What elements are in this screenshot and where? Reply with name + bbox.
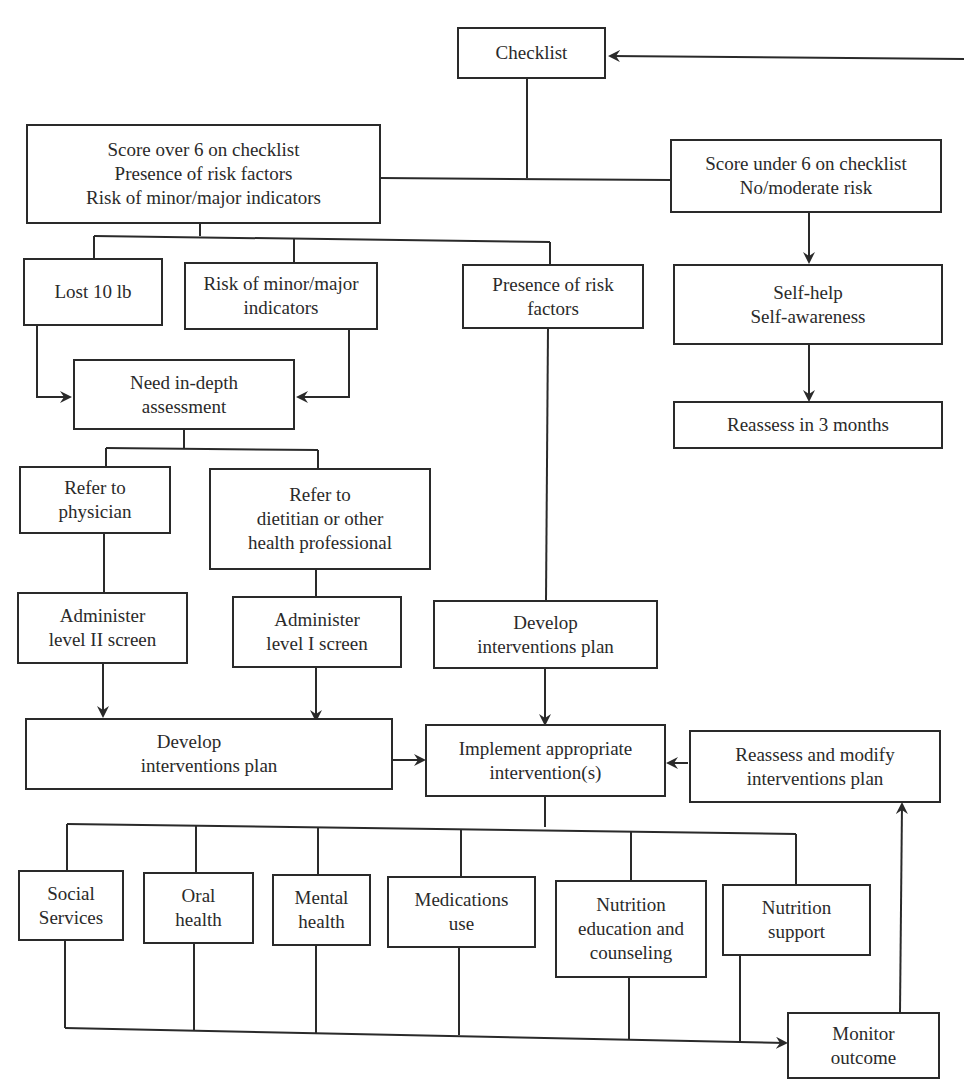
node-label: support (768, 920, 825, 944)
node-label: education and (578, 917, 684, 941)
node-label: Reassess in 3 months (727, 413, 889, 437)
node-label: Services (39, 906, 103, 930)
node-label: Lost 10 lb (54, 280, 131, 304)
node-label: Medications (415, 888, 509, 912)
node-nutrition-education: Nutrition education and counseling (555, 880, 707, 978)
node-reassess-modify-plan: Reassess and modify interventions plan (689, 730, 941, 803)
node-need-in-depth-assessment: Need in-depth assessment (73, 359, 295, 430)
node-administer-level-1: Administer level I screen (232, 596, 402, 668)
node-label: Refer to (289, 483, 351, 507)
node-label: health (298, 910, 344, 934)
node-label: interventions plan (141, 754, 278, 778)
node-label: Score over 6 on checklist (107, 138, 299, 162)
node-lost-10-lb: Lost 10 lb (23, 258, 163, 326)
node-refer-physician: Refer to physician (19, 466, 171, 534)
node-label: health professional (248, 531, 392, 555)
node-label: Need in-depth (130, 371, 238, 395)
node-label: interventions plan (477, 635, 614, 659)
node-medications-use: Medications use (387, 876, 536, 948)
node-label: physician (59, 500, 132, 524)
node-label: assessment (142, 395, 226, 419)
node-mental-health: Mental health (272, 874, 371, 946)
node-monitor-outcome: Monitor outcome (787, 1012, 940, 1079)
node-label: health (175, 908, 221, 932)
node-risk-indicators: Risk of minor/major indicators (184, 262, 378, 330)
node-score-under-6: Score under 6 on checklist No/moderate r… (670, 139, 942, 213)
node-label: level I screen (266, 632, 367, 656)
node-label: intervention(s) (490, 761, 602, 785)
node-label: Nutrition (596, 893, 666, 917)
node-score-over-6: Score over 6 on checklist Presence of ri… (26, 124, 381, 224)
node-label: Self-help (773, 281, 843, 305)
node-label: interventions plan (747, 767, 884, 791)
node-label: Monitor (832, 1022, 894, 1046)
node-label: Presence of risk (492, 273, 613, 297)
node-oral-health: Oral health (143, 872, 254, 944)
node-label: Reassess and modify (735, 743, 894, 767)
node-label: Develop (513, 611, 577, 635)
node-label: No/moderate risk (740, 176, 872, 200)
node-self-help: Self-help Self-awareness (673, 264, 943, 345)
node-label: Refer to (64, 476, 126, 500)
node-administer-level-2: Administer level II screen (17, 592, 188, 664)
node-label: Mental (295, 886, 349, 910)
node-label: Oral (182, 884, 216, 908)
node-label: Implement appropriate (459, 737, 633, 761)
node-label: Score under 6 on checklist (705, 152, 907, 176)
node-refer-dietitian: Refer to dietitian or other health profe… (209, 468, 431, 570)
node-social-services: Social Services (18, 870, 124, 941)
node-label: outcome (831, 1046, 896, 1070)
flowchart-canvas: Checklist Score over 6 on checklist Pres… (0, 0, 964, 1083)
node-nutrition-support: Nutrition support (722, 884, 871, 956)
node-label: Social (47, 882, 95, 906)
node-label: dietitian or other (257, 507, 384, 531)
node-develop-plan-right: Develop interventions plan (433, 600, 658, 669)
node-label: Administer (274, 608, 360, 632)
node-label: use (449, 912, 474, 936)
node-label: factors (527, 297, 579, 321)
node-label: Risk of minor/major indicators (86, 186, 321, 210)
node-label: Administer (60, 604, 146, 628)
node-label: Develop (157, 730, 221, 754)
node-implement-intervention: Implement appropriate intervention(s) (425, 724, 666, 797)
node-label: Presence of risk factors (115, 162, 293, 186)
node-presence-risk-factors: Presence of risk factors (462, 264, 644, 329)
node-develop-plan-left: Develop interventions plan (25, 718, 393, 790)
node-label: indicators (244, 296, 319, 320)
node-label: Risk of minor/major (203, 272, 358, 296)
offpage-to-checklist-arrow (610, 56, 964, 59)
node-label: Self-awareness (750, 305, 865, 329)
node-label: Checklist (496, 41, 568, 65)
node-reassess-3-months: Reassess in 3 months (673, 401, 943, 449)
node-label: Nutrition (762, 896, 832, 920)
node-label: level II screen (49, 628, 157, 652)
node-checklist: Checklist (457, 27, 606, 79)
node-label: counseling (590, 941, 672, 965)
